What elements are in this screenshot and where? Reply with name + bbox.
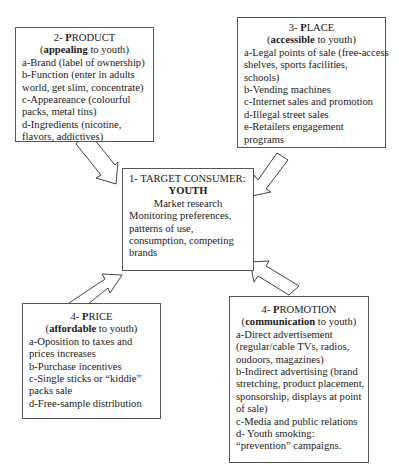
promotion-item: c-Media and public relations: [236, 416, 362, 428]
price-item: d-Free-sample distribution: [29, 398, 154, 410]
place-item: a-Legal points of sale (free-access: [244, 47, 379, 59]
promotion-qualifier: (communication to youth): [236, 316, 362, 328]
product-box: 2- PRODUCT (appealing to youth) a-Brand …: [15, 27, 154, 142]
price-qualifier: (affordable to youth): [29, 323, 154, 335]
promotion-item: a-Direct advertisement: [236, 329, 362, 341]
product-title: 2- PRODUCT: [22, 32, 147, 44]
price-item: packs sale: [29, 385, 154, 397]
promotion-item: of sale): [236, 403, 362, 415]
price-item: a-Oposition to taxes and: [29, 336, 154, 348]
promotion-box: 4- PROMOTION (communication to youth) a-…: [229, 296, 369, 463]
price-title: 4- PRICE: [29, 311, 154, 323]
place-item: c-Internet sales and promotion: [244, 96, 379, 108]
promotion-item: “prevention” campaigns.: [236, 440, 362, 452]
product-item: world, get slim, concentrate): [22, 82, 147, 94]
arrow-promotion-to-target: [250, 261, 299, 295]
promotion-item: sponsorship, displays at point: [236, 391, 362, 403]
target-subtitle: YOUTH: [129, 185, 247, 197]
price-item: prices increases: [29, 348, 154, 360]
promotion-item: (regular/cable TVs, radios,: [236, 341, 362, 353]
promotion-item: b-Indirect advertising (brand: [236, 366, 362, 378]
product-item: d-Ingredients (nicotine,: [22, 119, 147, 131]
promotion-item: oudoors, magazines): [236, 354, 362, 366]
target-item: consumption, competing: [129, 235, 247, 247]
place-title: 3- PLACE: [244, 22, 379, 34]
product-item: c-Appeareance (colourful: [22, 94, 147, 106]
promotion-title: 4- PROMOTION: [236, 304, 362, 316]
target-item: Monitoring preferences,: [129, 210, 247, 222]
price-box: 4- PRICE (affordable to youth) a-Opositi…: [22, 303, 161, 419]
target-item: brands: [129, 247, 247, 259]
price-item: c-Single sticks or “kiddie”: [29, 373, 154, 385]
target-title: 1- TARGET CONSUMER:: [129, 173, 247, 185]
arrow-place-to-target: [252, 153, 288, 196]
target-item: patterns of use,: [129, 223, 247, 235]
price-item: b-Purchase incentives: [29, 361, 154, 373]
product-item: b-Function (enter in adults: [22, 69, 147, 81]
place-item: b-Vending machines: [244, 84, 379, 96]
promotion-item: stretching, product placement,: [236, 378, 362, 390]
place-item: schools): [244, 72, 379, 84]
product-qualifier: (appealing to youth): [22, 44, 147, 56]
product-item: packs, metal tins): [22, 106, 147, 118]
target-consumer-box: 1- TARGET CONSUMER: YOUTH Market researc…: [122, 168, 254, 271]
place-item: programs: [244, 134, 379, 146]
promotion-item: d- Youth smoking:: [236, 428, 362, 440]
product-item: a-Brand (label of ownership): [22, 57, 147, 69]
place-item: d-Illegal street sales: [244, 109, 379, 121]
place-item: shelves, sports facilities,: [244, 59, 379, 71]
place-item: e-Retailers engagement: [244, 121, 379, 133]
place-box: 3- PLACE (accessible to youth) a-Legal p…: [237, 17, 386, 148]
place-qualifier: (accessible to youth): [244, 34, 379, 46]
product-item: flavors, addictives): [22, 131, 147, 143]
target-heading: Market research: [129, 198, 247, 210]
